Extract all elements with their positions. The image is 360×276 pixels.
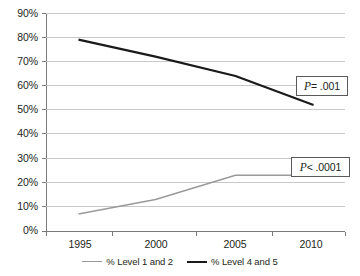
gridline xyxy=(46,37,345,38)
x-axis-tick xyxy=(112,232,113,236)
y-axis-tick-label: 0% xyxy=(4,225,38,235)
legend-swatch-icon xyxy=(187,261,207,263)
y-axis-tick-label: 60% xyxy=(4,80,38,90)
gridline xyxy=(46,182,345,183)
gridline xyxy=(46,109,345,110)
y-axis-tick-label: 40% xyxy=(4,128,38,138)
plot-area xyxy=(46,13,345,231)
y-axis-tick-label: 50% xyxy=(4,104,38,114)
annotation-p-value-level-1-and-2: P < .0001 xyxy=(291,157,350,177)
annotation-p-text: < .0001 xyxy=(307,161,342,173)
x-axis-tick-label: 1995 xyxy=(55,238,105,250)
legend-swatch-icon xyxy=(82,261,102,262)
legend-label: % Level 1 and 2 xyxy=(106,256,173,267)
chart-legend: % Level 1 and 2 % Level 4 and 5 xyxy=(0,256,360,267)
annotation-p-symbol: P xyxy=(304,80,311,92)
x-axis-tick xyxy=(345,232,346,236)
x-axis-tick xyxy=(272,232,273,236)
gridline xyxy=(46,206,345,207)
y-axis-tick-label: 90% xyxy=(4,8,38,18)
y-axis-tick-label: 70% xyxy=(4,56,38,66)
y-axis-tick-label: 10% xyxy=(4,201,38,211)
y-axis-tick-label: 80% xyxy=(4,32,38,42)
legend-item-level-1-and-2: % Level 1 and 2 xyxy=(82,256,173,267)
annotation-p-text: = .001 xyxy=(311,80,340,92)
gridline xyxy=(46,133,345,134)
x-axis-tick-label: 2005 xyxy=(210,238,260,250)
y-axis-tick-label: 30% xyxy=(4,153,38,163)
chart-container: 90% 80% 70% 60% 50% 40% 30% 20% 10% 0% xyxy=(0,0,360,276)
gridline xyxy=(46,61,345,62)
annotation-p-value-level-4-and-5: P = .001 xyxy=(296,76,348,96)
x-axis-tick xyxy=(46,232,47,236)
legend-label: % Level 4 and 5 xyxy=(211,256,278,267)
x-axis-tick-label: 2010 xyxy=(286,238,336,250)
x-axis-tick xyxy=(196,232,197,236)
annotation-p-symbol: P xyxy=(300,161,307,173)
x-axis-tick-label: 2000 xyxy=(131,238,181,250)
y-axis-tick-label: 20% xyxy=(4,177,38,187)
legend-item-level-4-and-5: % Level 4 and 5 xyxy=(187,256,278,267)
gridline xyxy=(46,13,345,14)
